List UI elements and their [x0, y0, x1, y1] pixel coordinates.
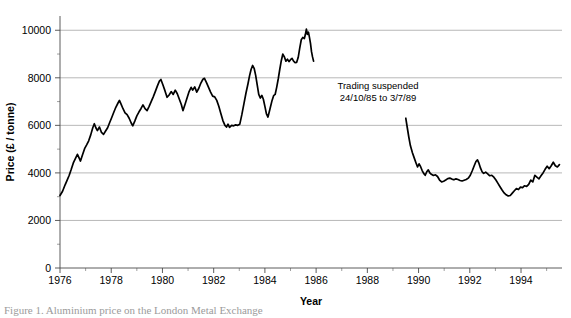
series-line-1: [60, 29, 314, 195]
y-tick-label-6000: 6000: [28, 119, 52, 131]
y-tick-label-10000: 10000: [22, 24, 51, 36]
x-tick-label-1982: 1982: [202, 274, 226, 286]
y-tick-label-0: 0: [45, 262, 51, 274]
x-tick-label-1988: 1988: [356, 274, 380, 286]
y-tick-label-2000: 2000: [28, 214, 52, 226]
x-tick-label-1978: 1978: [100, 274, 124, 286]
series-line-2: [406, 118, 560, 196]
gridlines: [60, 30, 562, 220]
x-tick-label-1990: 1990: [407, 274, 431, 286]
figure-caption-text: Figure 1. Aluminium price on the London …: [0, 304, 571, 317]
figure-caption-clipped: Figure 1. Aluminium price on the London …: [0, 304, 571, 318]
x-tick-label-1986: 1986: [304, 274, 328, 286]
trading-suspended-annotation-line1: Trading suspended: [338, 80, 419, 91]
y-tick-label-8000: 8000: [28, 72, 52, 84]
figure-container: 1976197819801982198419861988199019921994…: [0, 0, 571, 318]
price-line-chart: 1976197819801982198419861988199019921994…: [0, 0, 571, 318]
axis-ticks: [55, 30, 547, 273]
data-series: [60, 29, 559, 196]
y-axis-title: Price (£ / tonne): [4, 103, 16, 182]
x-tick-label-1992: 1992: [458, 274, 482, 286]
x-tick-label-1976: 1976: [48, 274, 72, 286]
x-tick-label-1980: 1980: [151, 274, 175, 286]
y-tick-label-4000: 4000: [28, 167, 52, 179]
y-tick-labels: 0200040006000800010000: [22, 24, 51, 274]
x-tick-label-1984: 1984: [253, 274, 277, 286]
trading-suspended-annotation-line2: 24/10/85 to 3/7/89: [340, 92, 417, 103]
x-tick-label-1994: 1994: [509, 274, 533, 286]
x-tick-labels: 1976197819801982198419861988199019921994: [48, 274, 533, 286]
